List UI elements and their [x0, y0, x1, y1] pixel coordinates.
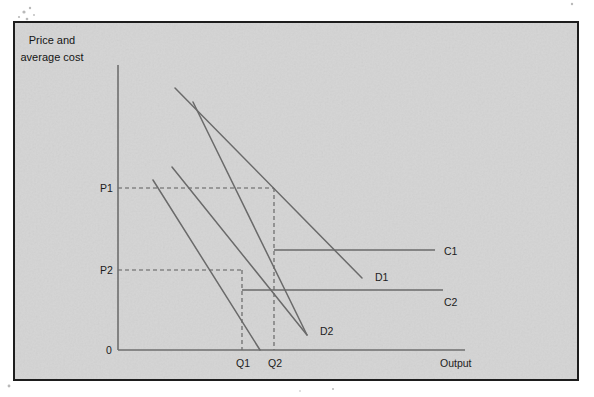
figure-root: P1P20Q1Q2OutputC1C2D1D2Price andaverage … [0, 0, 594, 397]
origin-label: 0 [106, 344, 112, 356]
economics-chart: P1P20Q1Q2OutputC1C2D1D2Price andaverage … [0, 0, 594, 397]
plot-area: P1P20Q1Q2OutputC1C2D1D2Price andaverage … [14, 22, 578, 380]
d1-label: D1 [375, 271, 389, 283]
y-axis-title-line1: Price and [29, 34, 75, 46]
c1-label: C1 [444, 245, 458, 257]
y-axis-title-line2: average cost [21, 51, 84, 63]
p1-label: P1 [100, 182, 113, 194]
c2-label: C2 [444, 296, 458, 308]
output-label: Output [440, 357, 472, 369]
plot-background [15, 23, 577, 379]
p2-label: P2 [100, 264, 113, 276]
q2-label: Q2 [268, 357, 282, 369]
q1-label: Q1 [236, 357, 250, 369]
d2-label: D2 [320, 325, 334, 337]
